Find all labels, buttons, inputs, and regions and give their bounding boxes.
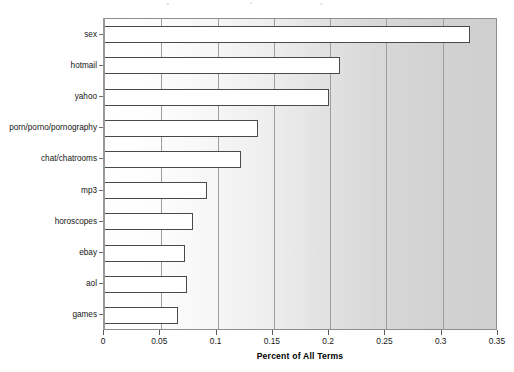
x-axis-tick-mark xyxy=(159,330,160,335)
x-axis-tick-label: 0.2 xyxy=(308,336,348,346)
x-axis-tick-label: 0.15 xyxy=(252,336,292,346)
y-axis-tick-label: horoscopes xyxy=(0,216,97,225)
x-axis-tick-label: 0.1 xyxy=(196,336,236,346)
y-axis-tick-label: aol xyxy=(0,279,97,288)
bar-chart: sexhotmailyahooporn/porno/pornographycha… xyxy=(0,0,514,372)
x-axis-tick-label: 0.3 xyxy=(421,336,461,346)
x-axis-tick-mark xyxy=(441,330,442,335)
x-axis-tick-label: 0.35 xyxy=(477,336,514,346)
bar xyxy=(105,245,185,262)
bar xyxy=(105,89,329,106)
bar xyxy=(105,151,241,168)
gridline xyxy=(386,19,387,329)
x-axis-tick-label: 0.05 xyxy=(139,336,179,346)
bar xyxy=(105,213,193,230)
y-axis-tick-label: hotmail xyxy=(0,60,97,69)
plot-area xyxy=(103,18,497,330)
x-axis-tick-mark xyxy=(384,330,385,335)
x-axis-tick-mark xyxy=(103,330,104,335)
bar xyxy=(105,276,187,293)
y-axis-tick-label: chat/chatrooms xyxy=(0,154,97,163)
bar xyxy=(105,307,178,324)
x-axis-tick-mark xyxy=(497,330,498,335)
y-axis-tick-label: mp3 xyxy=(0,185,97,194)
scan-artifact xyxy=(150,1,370,6)
x-axis-title: Percent of All Terms xyxy=(103,351,497,361)
bar xyxy=(105,57,340,74)
x-axis-tick-label: 0 xyxy=(83,336,123,346)
gridline xyxy=(443,19,444,329)
x-axis-tick-mark xyxy=(272,330,273,335)
y-axis-tick-label: porn/porno/pornography xyxy=(0,123,97,132)
y-axis-tick-label: ebay xyxy=(0,248,97,257)
bar xyxy=(105,120,258,137)
y-axis-tick-label: yahoo xyxy=(0,92,97,101)
x-axis-tick-mark xyxy=(216,330,217,335)
x-axis-tick-mark xyxy=(328,330,329,335)
bar xyxy=(105,26,470,43)
bar xyxy=(105,182,207,199)
y-axis-tick-label: games xyxy=(0,310,97,319)
y-axis-tick-label: sex xyxy=(0,29,97,38)
x-axis-tick-label: 0.25 xyxy=(364,336,404,346)
